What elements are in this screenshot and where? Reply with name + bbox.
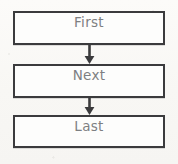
flowchart-node-next[interactable]: Next bbox=[13, 64, 165, 98]
flowchart-node-next-label: Next bbox=[73, 66, 106, 83]
down-arrow-icon bbox=[0, 96, 178, 116]
flowchart-node-last[interactable]: Last bbox=[13, 115, 165, 148]
flowchart-node-first-label: First bbox=[74, 13, 104, 30]
flowchart-node-last-label: Last bbox=[74, 117, 103, 134]
flowchart-node-first[interactable]: First bbox=[13, 11, 165, 45]
flowchart-connector-first-to-next bbox=[0, 44, 178, 64]
flowchart-diagram: First Next Last bbox=[0, 0, 178, 164]
flowchart-connector-next-to-last bbox=[0, 96, 178, 116]
down-arrow-icon bbox=[0, 44, 178, 64]
